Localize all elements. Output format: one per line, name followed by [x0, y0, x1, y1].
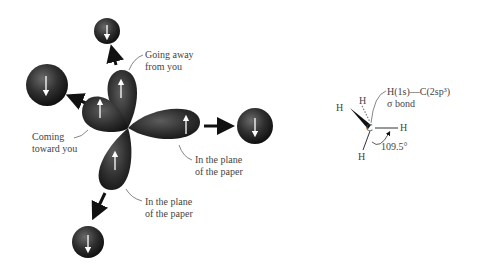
label-line: In the plane: [195, 154, 243, 166]
label-line: of the paper: [195, 166, 243, 178]
arrow-down: [96, 193, 105, 212]
label-line: In the plane: [145, 196, 193, 208]
angle-label: 109.5°: [381, 141, 408, 153]
label-plane-bottom: In the plane of the paper: [145, 196, 193, 220]
label-line: Going away: [145, 49, 194, 61]
label-line: toward you: [32, 143, 77, 155]
label-line: from you: [145, 61, 194, 73]
hydrogen-right: [237, 108, 273, 144]
label-line: of the paper: [145, 208, 193, 220]
label-plane-right: In the plane of the paper: [195, 154, 243, 178]
atom-h-right: H: [400, 122, 407, 134]
atom-h-top: H: [359, 95, 366, 107]
atom-h-left: H: [336, 102, 343, 114]
hydrogen-left: [26, 64, 68, 106]
lobe-in-plane-right: [128, 109, 200, 139]
hydrogen-bottom: [72, 226, 104, 258]
label-coming-toward: Coming toward you: [32, 131, 77, 155]
leader-sigma: [371, 91, 386, 123]
atom-h-bottom: H: [358, 151, 365, 163]
bond-label: H(1s)—C(2sp³) σ bond: [387, 86, 450, 110]
leader-plane-bottom: [126, 189, 142, 201]
leader-plane-right: [179, 145, 192, 160]
label-line: H(1s)—C(2sp³): [387, 86, 450, 98]
label-going-away: Going away from you: [145, 49, 194, 73]
arrow-up: [113, 53, 116, 65]
leader-going-away: [129, 55, 143, 70]
label-line: Coming: [32, 131, 77, 143]
hydrogen-top: [94, 18, 120, 44]
label-line: σ bond: [387, 98, 450, 110]
lobe-in-plane-bottom: [99, 128, 132, 190]
atom-carbon: C: [366, 122, 373, 134]
